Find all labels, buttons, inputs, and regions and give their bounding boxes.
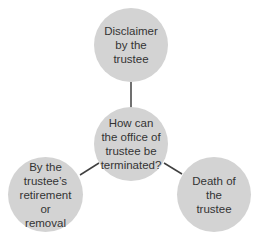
- node-label-line: or removal: [14, 202, 78, 230]
- node-label-line: Death of: [183, 174, 245, 188]
- node-label-line: Disclaimer: [98, 24, 164, 38]
- node-label-line: by the: [98, 38, 164, 52]
- node-label-line: trustee: [98, 52, 164, 66]
- node-label-line: the office of: [95, 130, 168, 144]
- node-disclaimer: Disclaimer by the trustee: [94, 8, 168, 82]
- node-retirement-removal: By the trustee’s retirement or removal: [8, 157, 83, 232]
- node-label-line: By the: [14, 160, 78, 174]
- node-label-line: trustee’s: [14, 174, 78, 188]
- node-label-line: retirement: [14, 188, 78, 202]
- node-label-line: trustee be: [95, 144, 168, 158]
- node-label-line: the trustee: [183, 188, 245, 216]
- node-center-question: How can the office of trustee be termina…: [94, 107, 168, 181]
- node-label-line: terminated?: [95, 158, 168, 172]
- node-death: Death of the trustee: [177, 157, 251, 232]
- node-label-line: How can: [95, 116, 168, 130]
